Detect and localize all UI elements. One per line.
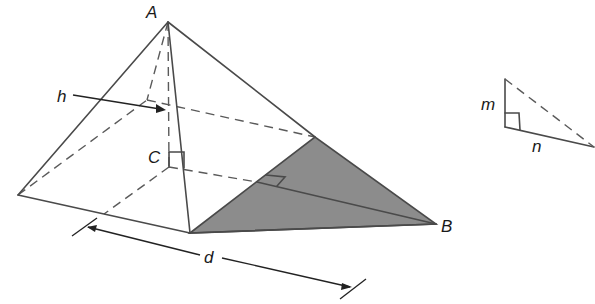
aux-triangle <box>505 79 594 147</box>
label-dimension-d: d <box>204 248 214 267</box>
label-leg-m: m <box>481 95 495 114</box>
label-apex-a: A <box>145 3 157 22</box>
label-vertex-b: B <box>441 217 452 236</box>
pyramid-diagram: A C B h d m n <box>0 0 595 304</box>
height-arrow <box>73 95 166 113</box>
label-leg-n: n <box>532 137 541 156</box>
label-center-c: C <box>148 148 161 167</box>
shaded-triangle <box>190 137 436 233</box>
label-height-h: h <box>57 87 66 106</box>
